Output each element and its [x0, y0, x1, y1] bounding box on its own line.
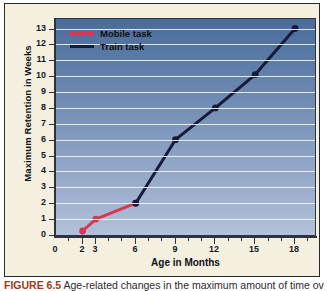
x-minor-tick — [281, 238, 282, 241]
x-axis-ticks: 02369121518 — [55, 238, 316, 258]
chart-legend: Mobile task Train task — [68, 25, 156, 55]
x-tick-label: 0 — [43, 245, 67, 254]
gridline — [56, 140, 315, 141]
y-tick-label: 3 — [22, 182, 46, 191]
y-tick-label: 9 — [22, 87, 46, 96]
x-minor-tick — [121, 238, 122, 241]
legend-item-mobile-task: Mobile task — [70, 27, 152, 40]
x-axis-title: Age in Months — [55, 257, 316, 268]
y-tick-label: 13 — [22, 24, 46, 33]
legend-label-mobile-task: Mobile task — [100, 28, 152, 39]
x-tick-label: 6 — [123, 245, 147, 254]
y-tick-label: 6 — [22, 135, 46, 144]
series-line-train-task — [136, 29, 295, 204]
legend-item-train-task: Train task — [70, 40, 152, 53]
x-minor-tick — [307, 238, 308, 241]
legend-label-train-task: Train task — [100, 41, 144, 52]
figure-caption-text: Age-related changes in the maximum amoun… — [61, 279, 324, 291]
x-minor-tick — [241, 238, 242, 241]
gridline — [56, 171, 315, 172]
gridline — [56, 156, 315, 157]
y-tick-label: 12 — [22, 39, 46, 48]
y-tick-label: 8 — [22, 103, 46, 112]
figure-frame: Maximum Retention in Weeks 0123456789101… — [4, 3, 320, 277]
gridline — [56, 203, 315, 204]
y-tick-label: 7 — [22, 119, 46, 128]
x-minor-tick — [161, 238, 162, 241]
x-minor-tick — [108, 238, 109, 241]
y-tick-label: 2 — [22, 198, 46, 207]
legend-swatch-mobile-task — [70, 32, 94, 35]
figure-caption-label: FIGURE 6.5 — [4, 279, 61, 291]
y-axis-ticks: 012345678910111213 — [5, 18, 54, 237]
x-minor-tick — [268, 238, 269, 241]
y-tick-label: 11 — [22, 55, 46, 64]
plot-area: Mobile task Train task — [55, 18, 316, 236]
data-point — [79, 228, 86, 235]
x-minor-tick — [68, 238, 69, 241]
x-tick-label: 12 — [202, 245, 226, 254]
series-line-mobile-task — [83, 203, 136, 231]
x-tick-label: 3 — [83, 245, 107, 254]
y-tick-label: 5 — [22, 151, 46, 160]
x-minor-tick — [201, 238, 202, 241]
gridline — [56, 92, 315, 93]
y-tick-label: 10 — [22, 71, 46, 80]
y-tick-label: 0 — [22, 230, 46, 239]
gridline — [56, 108, 315, 109]
figure-caption: FIGURE 6.5 Age-related changes in the ma… — [4, 279, 324, 291]
x-tick-label: 15 — [242, 245, 266, 254]
gridline — [56, 60, 315, 61]
y-tick-label: 1 — [22, 214, 46, 223]
x-tick-label: 18 — [282, 245, 306, 254]
x-tick-label: 9 — [163, 245, 187, 254]
x-minor-tick — [188, 238, 189, 241]
gridline — [56, 187, 315, 188]
y-tick-label: 4 — [22, 166, 46, 175]
gridline — [56, 76, 315, 77]
gridline — [56, 124, 315, 125]
x-minor-tick — [148, 238, 149, 241]
x-minor-tick — [228, 238, 229, 241]
gridline — [56, 219, 315, 220]
legend-swatch-train-task — [70, 45, 94, 48]
